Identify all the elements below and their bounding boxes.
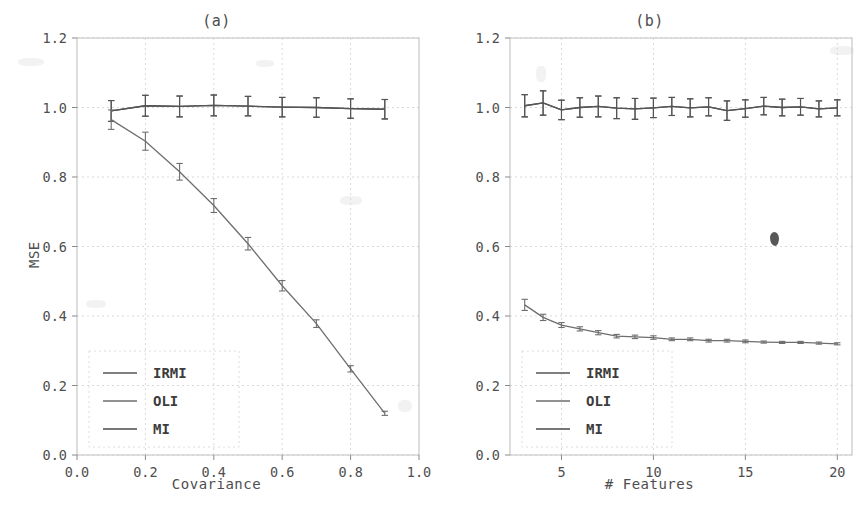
legend-entry-irmi: IRMI — [586, 365, 620, 381]
panel-b-plot: 0.00.20.40.60.81.01.25101520IRMIOLIMI — [433, 0, 866, 511]
svg-text:1.0: 1.0 — [43, 100, 67, 116]
panel-a-plot: 0.00.20.40.60.81.01.20.00.20.40.60.81.0I… — [0, 0, 433, 511]
svg-text:1.2: 1.2 — [476, 30, 500, 46]
svg-text:0.0: 0.0 — [43, 447, 67, 463]
panel-a-xaxis-label: Covariance — [0, 476, 433, 492]
svg-text:0.2: 0.2 — [43, 378, 67, 394]
scan-smudge-artifact — [770, 232, 779, 246]
svg-text:0.8: 0.8 — [43, 169, 67, 185]
chart-panel-a: (a) 0.00.20.40.60.81.01.20.00.20.40.60.8… — [0, 0, 433, 511]
legend-entry-oli: OLI — [586, 393, 611, 409]
svg-text:0.4: 0.4 — [476, 308, 500, 324]
panel-b-xaxis-label: # Features — [433, 476, 866, 492]
svg-text:0.6: 0.6 — [476, 239, 500, 255]
chart-panel-b: (b) 0.00.20.40.60.81.01.25101520IRMIOLIM… — [433, 0, 866, 511]
svg-text:0.0: 0.0 — [476, 447, 500, 463]
legend-entry-mi: MI — [586, 421, 603, 437]
svg-text:0.6: 0.6 — [43, 239, 67, 255]
svg-text:1.2: 1.2 — [43, 30, 67, 46]
legend-entry-irmi: IRMI — [153, 365, 187, 381]
svg-text:0.4: 0.4 — [43, 308, 67, 324]
svg-text:0.8: 0.8 — [476, 169, 500, 185]
figure-canvas: (a) 0.00.20.40.60.81.01.20.00.20.40.60.8… — [0, 0, 866, 511]
panel-a-yaxis-label: MSE — [26, 241, 42, 268]
legend-entry-mi: MI — [153, 421, 170, 437]
svg-text:1.0: 1.0 — [476, 100, 500, 116]
svg-text:0.2: 0.2 — [476, 378, 500, 394]
legend-entry-oli: OLI — [153, 393, 178, 409]
